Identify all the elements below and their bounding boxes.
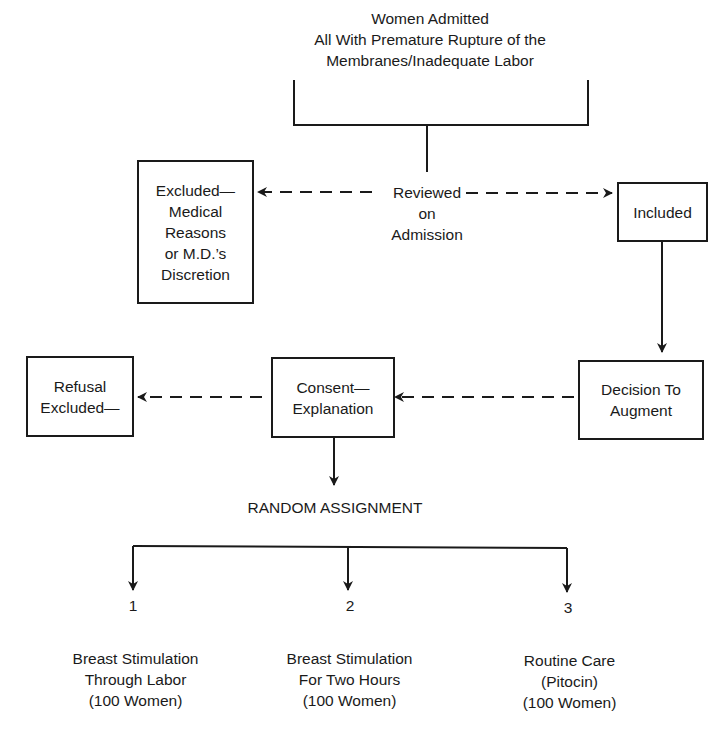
box-included: Included bbox=[617, 182, 708, 242]
box-excluded-medical: Excluded— Medical Reasons or M.D.’s Disc… bbox=[137, 160, 254, 304]
group-label-1: Breast Stimulation Through Labor (100 Wo… bbox=[48, 648, 223, 711]
group-label-3: Routine Care (Pitocin) (100 Women) bbox=[482, 650, 657, 713]
box-decision: Decision To Augment bbox=[578, 360, 704, 440]
review-label: Reviewed on Admission bbox=[367, 182, 487, 245]
random-assignment: RANDOM ASSIGNMENT bbox=[200, 497, 470, 518]
box-refusal: Refusal Excluded— bbox=[26, 356, 134, 437]
title: Women Admitted All With Premature Ruptur… bbox=[280, 8, 580, 71]
group-number-2: 2 bbox=[330, 595, 370, 616]
box-consent: Consent— Explanation bbox=[271, 357, 395, 438]
group-number-1: 1 bbox=[113, 595, 153, 616]
group-label-2: Breast Stimulation For Two Hours (100 Wo… bbox=[262, 648, 437, 711]
group-number-3: 3 bbox=[548, 597, 588, 618]
